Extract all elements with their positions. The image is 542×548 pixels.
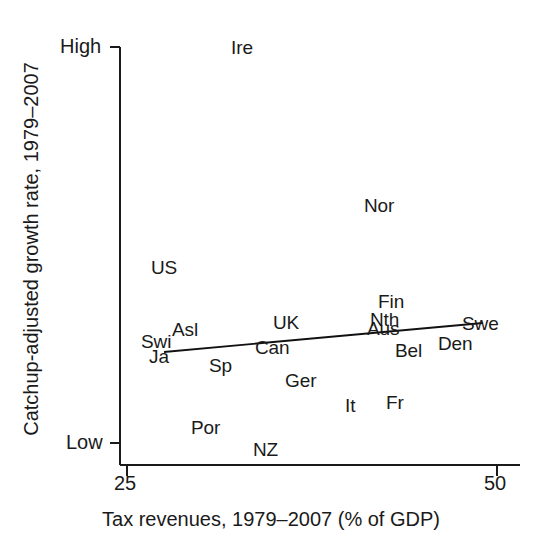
data-point-label: It [345, 396, 355, 415]
x-tick-label-50: 50 [484, 473, 506, 493]
data-point-label: Asl [172, 320, 198, 339]
data-point-label: Ja [149, 347, 169, 366]
plot-canvas [0, 0, 542, 548]
scatter-plot-figure: IreNorUSFinNthAusUKSweAslSwiDenCanBelJaS… [0, 0, 542, 548]
data-point-label: Ger [285, 371, 316, 390]
data-point-label: Can [255, 338, 290, 357]
y-axis-title-wrapper: Catchup-adjusted growth rate, 1979–2007 [16, 0, 46, 499]
data-point-label: NZ [253, 440, 278, 459]
data-point-label: Por [191, 418, 220, 437]
data-point-label: Ire [231, 38, 253, 57]
trend-line [164, 323, 483, 352]
data-point-label: US [151, 258, 177, 277]
data-point-label: UK [273, 313, 299, 332]
data-point-label: Den [438, 334, 473, 353]
data-point-label: Sp [209, 356, 232, 375]
data-point-label: Swe [462, 314, 499, 333]
y-tick-label-low: Low [66, 432, 103, 452]
data-point-label: Aus [367, 319, 399, 338]
data-point-label: Bel [395, 341, 422, 360]
x-tick-label-25: 25 [114, 473, 136, 493]
y-axis-title: Catchup-adjusted growth rate, 1979–2007 [16, 0, 46, 499]
data-point-label: Nor [364, 196, 394, 215]
y-tick-label-high: High [60, 36, 101, 56]
data-point-label: Fr [386, 393, 404, 412]
x-axis-title: Tax revenues, 1979–2007 (% of GDP) [0, 508, 542, 531]
